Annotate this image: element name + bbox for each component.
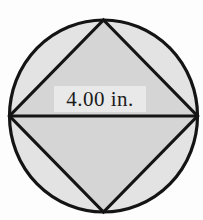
dimension-label: 4.00 in. bbox=[66, 87, 134, 111]
geometry-figure: 4.00 in. bbox=[0, 0, 203, 220]
circle-square-diagram: 4.00 in. bbox=[0, 0, 203, 220]
